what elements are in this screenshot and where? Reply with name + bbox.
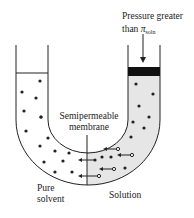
pure-label-line1: Pure [37, 183, 64, 194]
piston [128, 67, 160, 76]
than-text: than [122, 24, 141, 34]
membrane-label-line2: membrane [58, 122, 120, 133]
u-tube-diagram [0, 0, 194, 218]
solution-label: Solution [109, 190, 141, 201]
pure-solvent-label: Puresolvent [37, 183, 64, 205]
membrane-label: Semipermeablemembrane [58, 111, 120, 133]
pi-subscript: soln [146, 29, 156, 35]
pressure-label-line2: than πsoln [122, 24, 156, 38]
membrane-label-line1: Semipermeable [58, 111, 120, 122]
pressure-label: Pressure greater [122, 11, 183, 22]
pressure-arrow-icon [140, 34, 146, 63]
pure-label-line2: solvent [37, 194, 64, 205]
